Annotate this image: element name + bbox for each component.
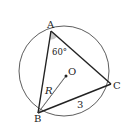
label-side-bc: 3 (77, 99, 83, 110)
label-radius: R (44, 85, 53, 96)
label-o: O (68, 66, 76, 77)
label-c: C (113, 80, 121, 91)
label-a: A (46, 19, 55, 30)
geometry-diagram: A B C O R 3 60° (0, 0, 129, 123)
side-ac (51, 31, 111, 84)
side-ab (38, 31, 51, 113)
label-b: B (34, 113, 41, 123)
label-angle-a: 60° (52, 47, 67, 57)
